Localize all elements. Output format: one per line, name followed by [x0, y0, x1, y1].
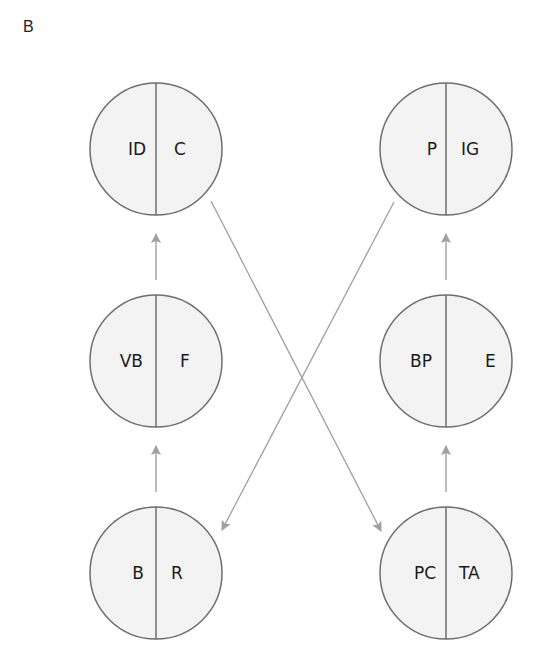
node-top-right: P IG: [380, 83, 512, 215]
node-label-right: R: [171, 563, 183, 583]
arrow-top-left-to-bottom-right: [211, 201, 381, 531]
node-label-right: IG: [461, 139, 479, 159]
node-label-right: F: [180, 351, 190, 371]
node-bottom-right: PC TA: [380, 507, 512, 639]
node-label-right: E: [485, 351, 496, 371]
node-top-left: ID C: [90, 83, 222, 215]
node-label-left: P: [427, 139, 437, 159]
node-label-left: ID: [128, 139, 146, 159]
cycle-diagram: ID C P IG VB F BP E B R PC TA: [0, 0, 546, 662]
node-label-right: TA: [458, 563, 480, 583]
node-label-left: PC: [414, 563, 436, 583]
node-label-left: BP: [410, 351, 432, 371]
node-mid-left: VB F: [90, 295, 222, 427]
arrow-top-right-to-bottom-left: [222, 202, 394, 530]
node-label-left: VB: [120, 351, 143, 371]
node-label-right: C: [174, 139, 186, 159]
node-mid-right: BP E: [380, 295, 512, 427]
node-bottom-left: B R: [90, 507, 222, 639]
node-label-left: B: [132, 563, 144, 583]
